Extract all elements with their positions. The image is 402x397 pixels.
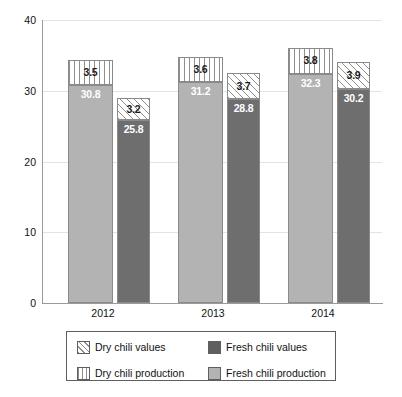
legend-item-fresh-chili-production[interactable]: Fresh chili production bbox=[208, 363, 335, 383]
legend-label: Fresh chili values bbox=[226, 341, 307, 353]
legend-row-2: Dry chili production Fresh chili product… bbox=[77, 363, 335, 383]
chili-stacked-bar-chart: 3.5 30.8 3.2 25.8 3.6 31.2 3.7 bbox=[0, 0, 402, 397]
legend-item-dry-chili-values[interactable]: Dry chili values bbox=[77, 337, 208, 357]
chart-legend: Dry chili values Fresh chili values Dry … bbox=[66, 331, 336, 381]
diagonal-hatch-swatch-icon bbox=[77, 341, 90, 354]
x-axis-label-2013: 2013 bbox=[178, 307, 248, 319]
legend-item-fresh-chili-values[interactable]: Fresh chili values bbox=[208, 337, 335, 357]
dark-gray-swatch-icon bbox=[208, 341, 221, 354]
legend-label: Dry chili production bbox=[95, 367, 184, 379]
y-tick-label: 0 bbox=[8, 298, 36, 308]
y-tick-label: 40 bbox=[8, 15, 36, 25]
y-tick-label: 20 bbox=[8, 157, 36, 167]
legend-label: Dry chili values bbox=[95, 341, 166, 353]
legend-label: Fresh chili production bbox=[226, 367, 326, 379]
x-axis-label-2012: 2012 bbox=[68, 307, 138, 319]
y-tick-label: 10 bbox=[8, 227, 36, 237]
legend-item-dry-chili-production[interactable]: Dry chili production bbox=[77, 363, 208, 383]
legend-row-1: Dry chili values Fresh chili values bbox=[77, 337, 335, 357]
x-axis-label-2014: 2014 bbox=[288, 307, 358, 319]
y-tick-label: 30 bbox=[8, 86, 36, 96]
light-gray-swatch-icon bbox=[208, 367, 221, 380]
vertical-stripes-swatch-icon bbox=[77, 367, 90, 380]
